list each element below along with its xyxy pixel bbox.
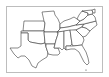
keys-dot (85, 69, 86, 70)
state-ks[interactable] (23, 21, 45, 31)
state-mo[interactable] (42, 11, 60, 32)
southern-us-map (0, 0, 109, 77)
state-fl[interactable] (66, 45, 89, 65)
